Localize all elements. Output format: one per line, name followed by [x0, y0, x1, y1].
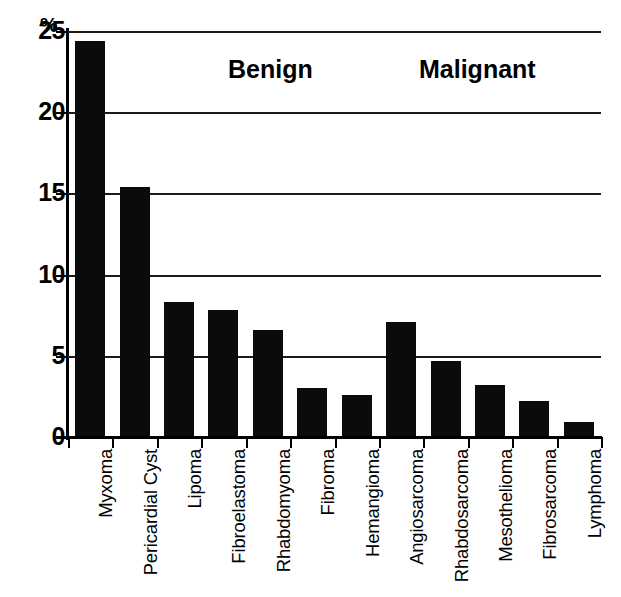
- bar-rhabdosarcoma: [431, 361, 461, 437]
- x-tick-6: [335, 437, 337, 448]
- bar-myxoma: [75, 41, 105, 437]
- bar-chart: 0510152025 % MyxomaPericardial CystLipom…: [0, 0, 621, 597]
- bar-series: [68, 31, 601, 437]
- bar-lymphoma: [564, 422, 594, 437]
- x-tick-1: [112, 437, 114, 448]
- x-label-mesothelioma: Mesothelioma: [497, 449, 516, 562]
- x-tick-3: [201, 437, 203, 448]
- bar-fibrosarcoma: [519, 401, 549, 437]
- x-tick-5: [290, 437, 292, 448]
- x-label-hemangioma: Hemangioma: [364, 449, 383, 557]
- x-axis-line: [56, 436, 602, 439]
- x-tick-7: [379, 437, 381, 448]
- bar-mesothelioma: [475, 385, 505, 437]
- x-tick-11: [557, 437, 559, 448]
- x-label-angiosarcoma: Angiosarcoma: [408, 449, 427, 565]
- bar-hemangioma: [342, 395, 372, 437]
- percent-axis-unit: %: [40, 14, 58, 37]
- x-label-fibroma: Fibroma: [319, 449, 338, 515]
- bar-rhabdomyoma: [253, 330, 283, 437]
- x-tick-10: [512, 437, 514, 448]
- bar-fibroelastoma: [208, 310, 238, 437]
- bar-angiosarcoma: [386, 322, 416, 437]
- bar-pericardial-cyst: [120, 187, 150, 437]
- annotation-benign: Benign: [228, 55, 313, 84]
- x-tick-0: [68, 437, 70, 448]
- x-label-myxoma: Myxoma: [97, 449, 116, 518]
- x-tick-8: [423, 437, 425, 448]
- x-tick-9: [468, 437, 470, 448]
- x-axis-labels: MyxomaPericardial CystLipomaFibroelastom…: [0, 449, 621, 597]
- x-label-pericardial-cyst: Pericardial Cyst: [142, 449, 161, 575]
- x-label-lipoma: Lipoma: [186, 449, 205, 508]
- x-label-fibroelastoma: Fibroelastoma: [230, 449, 249, 564]
- x-label-rhabdomyoma: Rhabdomyoma: [275, 449, 294, 572]
- x-label-lymphoma: Lymphoma: [586, 449, 605, 538]
- bar-lipoma: [164, 302, 194, 437]
- x-label-rhabdosarcoma: Rhabdosarcoma: [453, 449, 472, 582]
- x-tick-2: [157, 437, 159, 448]
- bar-fibroma: [297, 388, 327, 437]
- x-tick-4: [246, 437, 248, 448]
- x-label-fibrosarcoma: Fibrosarcoma: [541, 449, 560, 560]
- x-tick-12: [601, 437, 603, 448]
- annotation-malignant: Malignant: [419, 55, 536, 84]
